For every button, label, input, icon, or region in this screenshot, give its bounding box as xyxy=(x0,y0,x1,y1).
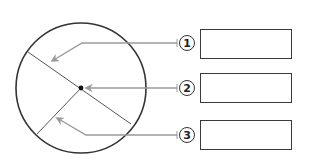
label-number-3: 3 xyxy=(179,127,195,143)
label-number-1: 1 xyxy=(179,35,195,51)
answer-box-2[interactable] xyxy=(200,73,292,103)
radius-line xyxy=(37,88,81,134)
leader-line-3 xyxy=(57,118,177,135)
label-number-2: 2 xyxy=(179,80,195,96)
answer-box-1[interactable] xyxy=(200,29,292,59)
leader-line-1 xyxy=(52,43,177,61)
center-point xyxy=(79,86,84,91)
answer-box-3[interactable] xyxy=(200,120,292,150)
